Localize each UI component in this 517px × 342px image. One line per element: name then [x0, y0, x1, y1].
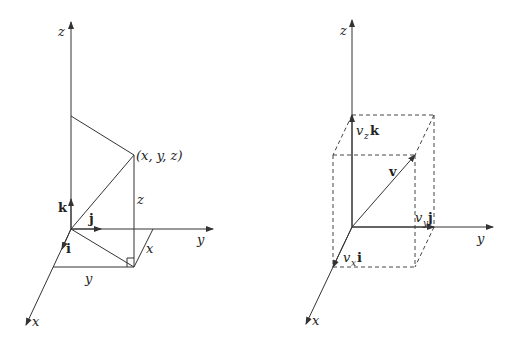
right-diagram: z y x v v z k v y j v x i: [306, 20, 493, 328]
svg-text:v: v: [415, 210, 423, 225]
diagram-canvas: z y x k j i z y x (x, y, z) z y x: [0, 0, 517, 342]
z-axis-label: z: [57, 24, 65, 39]
k-label: k: [58, 200, 68, 215]
z-edge-label: z: [136, 192, 144, 207]
x-edge-label: x: [146, 241, 154, 256]
svg-text:i: i: [357, 250, 362, 265]
y-axis-label: y: [476, 231, 485, 246]
i-label: i: [66, 241, 71, 256]
svg-text:v: v: [356, 123, 364, 138]
x-axis-label: x: [312, 313, 320, 328]
vy-label: v y j: [415, 210, 433, 228]
v-label: v: [388, 164, 397, 179]
y-edge-label: y: [84, 271, 93, 286]
svg-text:z: z: [363, 131, 369, 141]
v-vector: [352, 155, 415, 227]
top-projection-line: [71, 116, 134, 155]
box-edge: [415, 227, 434, 267]
point-label: (x, y, z): [136, 148, 182, 163]
svg-text:x: x: [351, 258, 356, 268]
svg-text:j: j: [427, 210, 433, 225]
xy-diagonal: [71, 229, 134, 267]
y-axis-label: y: [196, 232, 205, 247]
svg-text:k: k: [370, 123, 380, 138]
z-axis-label: z: [339, 23, 347, 38]
right-angle-marker: [127, 258, 134, 267]
svg-text:v: v: [343, 250, 351, 265]
left-diagram: z y x k j i z y x (x, y, z): [26, 22, 213, 329]
vz-label: v z k: [356, 123, 380, 141]
vx-label: v x i: [343, 250, 362, 268]
j-label: j: [88, 211, 94, 226]
box-edge: [415, 115, 434, 155]
x-axis-label: x: [32, 314, 40, 329]
box-edge: [333, 115, 352, 155]
position-line: [71, 155, 134, 229]
